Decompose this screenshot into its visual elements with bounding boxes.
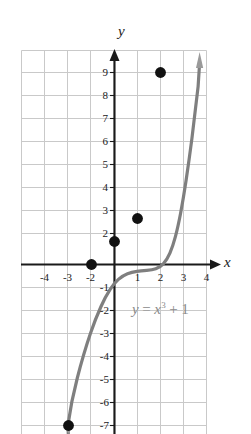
y-tick-label: -1 <box>93 282 109 293</box>
y-tick-label: 8 <box>95 90 108 101</box>
equation-constant: 1 <box>181 301 189 317</box>
y-tick-label: -3 <box>93 328 109 339</box>
y-tick-label: -7 <box>93 420 109 431</box>
y-tick-label: -4 <box>93 351 109 362</box>
y-tick-label: -2 <box>93 305 109 316</box>
y-tick-label: 4 <box>95 182 108 193</box>
equation-lhs-var: y <box>132 301 139 317</box>
axes <box>21 49 221 434</box>
plot-canvas <box>0 0 251 434</box>
x-axis-label: x <box>224 255 231 270</box>
data-point <box>109 236 120 247</box>
x-axis-arrowhead <box>210 260 221 270</box>
x-tick-label: 2 <box>149 272 172 283</box>
equation-plus: + <box>169 301 178 317</box>
y-tick-label: 7 <box>95 113 108 124</box>
y-tick-label: 2 <box>95 228 108 239</box>
data-point <box>132 213 143 224</box>
data-point <box>63 420 74 431</box>
y-tick-label: 3 <box>95 205 108 216</box>
y-tick-label: 6 <box>95 136 108 147</box>
equation-exponent: 3 <box>161 300 166 310</box>
data-point <box>155 67 166 78</box>
x-tick-label: 1 <box>126 272 149 283</box>
x-tick-label: 3 <box>172 272 195 283</box>
y-tick-label: 5 <box>95 159 108 170</box>
y-tick-label: 9 <box>95 67 108 78</box>
y-tick-label: -5 <box>93 374 109 385</box>
x-tick-label: 4 <box>195 272 218 283</box>
y-tick-label: -6 <box>93 397 109 408</box>
data-point <box>86 259 97 270</box>
equation-equals: = <box>142 301 151 317</box>
equation-annotation: y=x3+1 <box>132 300 189 318</box>
curve-arrowhead-top <box>196 52 203 68</box>
x-tick-label: -3 <box>56 272 79 283</box>
y-axis-label: y <box>118 24 125 39</box>
x-tick-label: -4 <box>33 272 56 283</box>
function-curve-group <box>65 52 203 434</box>
cubic-function-graph: y x -4 -3 -2 1 2 3 4 9 8 7 6 5 4 3 2 -1 … <box>0 0 251 434</box>
